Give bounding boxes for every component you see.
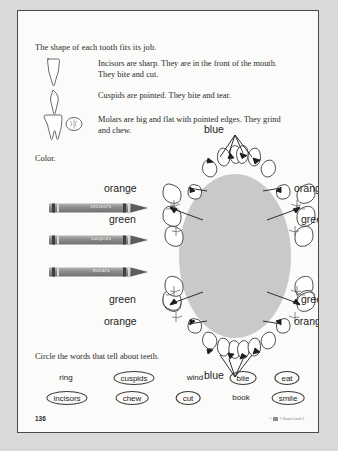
mouth-label-green-mid-right: green xyxy=(301,213,319,225)
word-cut[interactable]: cut xyxy=(176,391,201,405)
circle-instruction: Circle the words that tell about teeth. xyxy=(35,352,159,361)
color-instruction: Color. xyxy=(35,154,56,163)
crayon-label: incisors xyxy=(75,203,127,209)
word-incisors[interactable]: incisors xyxy=(46,391,87,405)
word-wind[interactable]: wind xyxy=(182,371,208,384)
mouth-label-orange-bottom-right: orange xyxy=(294,315,319,327)
cuspid-tooth-icon xyxy=(40,89,66,115)
mouth-label-green-mid-left: green xyxy=(109,213,136,225)
mouth-label-green-lower-right: green xyxy=(301,293,319,305)
word-bite[interactable]: bite xyxy=(230,371,257,385)
crayon-molars: molars xyxy=(49,264,148,276)
word-bank-row: incisors chew cut book smile xyxy=(40,391,302,408)
mouth-label-orange-upper-left: orange xyxy=(104,182,137,194)
crayon-label: molars xyxy=(75,267,127,273)
molar-tooth-icon xyxy=(40,113,86,143)
mouth-label-orange-upper-right: orange xyxy=(294,182,319,194)
crayon-cuspids: cuspids xyxy=(49,232,148,244)
intro-text: The shape of each tooth fits its job. xyxy=(35,43,156,52)
publisher-logo-icon xyxy=(273,417,278,421)
word-smile[interactable]: smile xyxy=(272,391,305,405)
mouth-diagram: blue orange orange green green green gre… xyxy=(148,131,319,381)
tooth-fact-text: Cuspids are pointed. They bite and tear. xyxy=(98,91,288,102)
mouth-label-orange-bottom-left: orange xyxy=(104,315,137,327)
word-chew[interactable]: chew xyxy=(116,391,149,405)
copyright-notice: © © Saxon Level 1 xyxy=(269,417,304,421)
page-number: 136 xyxy=(35,415,46,422)
word-eat[interactable]: eat xyxy=(274,371,299,385)
word-ring[interactable]: ring xyxy=(54,371,77,384)
mouth-diagram-svg xyxy=(148,131,319,381)
crayon-label: cuspids xyxy=(75,235,127,241)
copyright-text: © Saxon Level 1 xyxy=(280,417,304,421)
word-bank-row: ring cuspids wind bite eat xyxy=(40,371,302,388)
copyright-symbol: © xyxy=(269,417,271,421)
mouth-label-green-lower-left: green xyxy=(109,293,136,305)
word-bank: ring cuspids wind bite eat incisors chew… xyxy=(40,371,302,408)
worksheet-page: The shape of each tooth fits its job. In… xyxy=(17,10,319,433)
mouth-label-blue-top: blue xyxy=(204,123,224,135)
crayon-incisors: incisors xyxy=(49,200,148,212)
incisor-tooth-icon xyxy=(40,57,66,87)
tooth-fact-text: Incisors are sharp. They are in the fron… xyxy=(98,59,288,80)
word-book[interactable]: book xyxy=(227,391,254,404)
word-cuspids[interactable]: cuspids xyxy=(113,371,154,385)
